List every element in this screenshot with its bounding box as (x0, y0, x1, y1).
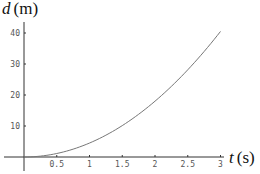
y-axis-title: d(m) (2, 0, 38, 18)
data-curve (24, 31, 221, 157)
x-tick-label: 2.5 (181, 160, 196, 169)
x-tick-label: 1 (87, 160, 92, 169)
x-tick-label: 1.5 (115, 160, 130, 169)
y-tick-label: 10 (10, 122, 20, 131)
x-tick-label: 0.5 (50, 160, 65, 169)
distance-time-chart: 0.511.522.53 10203040 d(m) t(s) (0, 0, 260, 174)
x-tick-label: 2 (153, 160, 158, 169)
x-axis-title: t(s) (229, 148, 255, 167)
y-tick-label: 30 (10, 60, 20, 69)
y-tick-label: 20 (10, 91, 20, 100)
y-tick-label: 40 (10, 29, 20, 38)
axes (4, 22, 224, 171)
x-tick-label: 3 (218, 160, 223, 169)
